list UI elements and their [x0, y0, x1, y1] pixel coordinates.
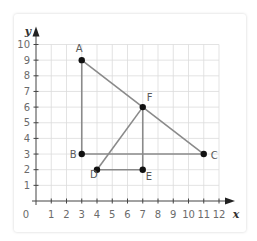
x-tick-label: 2 — [63, 209, 69, 220]
x-tick-label: 7 — [140, 209, 146, 220]
point-B — [79, 151, 85, 157]
y-tick-label: 9 — [24, 55, 30, 66]
point-label-B: B — [70, 149, 77, 160]
y-tick-label: 1 — [24, 180, 30, 191]
x-tick-label: 12 — [213, 209, 226, 220]
x-tick-label: 4 — [94, 209, 100, 220]
point-label-D: D — [90, 169, 98, 180]
origin-label: 0 — [23, 209, 29, 220]
y-axis-label: y — [24, 25, 33, 38]
x-tick-label: 6 — [124, 209, 130, 220]
y-tick-label: 3 — [24, 149, 30, 160]
point-label-F: F — [147, 92, 153, 103]
y-tick-label: 7 — [24, 86, 30, 97]
y-tick-label: 2 — [24, 164, 30, 175]
x-axis-arrow-icon — [225, 198, 235, 205]
point-A — [79, 57, 85, 63]
x-tick-label: 9 — [170, 209, 176, 220]
x-axis-label: x — [232, 208, 240, 221]
point-F — [140, 104, 146, 110]
x-tick-label: 5 — [109, 209, 115, 220]
point-label-E: E — [146, 171, 152, 182]
y-tick-label: 10 — [17, 39, 30, 50]
y-tick-label: 4 — [24, 133, 30, 144]
x-tick-label: 1 — [48, 209, 54, 220]
point-C — [201, 151, 207, 157]
x-tick-label: 8 — [155, 209, 161, 220]
y-axis-arrow-icon — [33, 27, 40, 37]
x-tick-label: 3 — [79, 209, 85, 220]
y-tick-label: 6 — [24, 102, 30, 113]
y-tick-label: 5 — [24, 117, 30, 128]
point-label-A: A — [76, 43, 83, 54]
y-tick-label: 8 — [24, 70, 30, 81]
point-label-C: C — [211, 150, 218, 161]
x-tick-label: 10 — [182, 209, 195, 220]
x-tick-label: 11 — [197, 209, 210, 220]
coordinate-grid: 123456789101112123456789100xyABCDEF — [0, 0, 257, 241]
